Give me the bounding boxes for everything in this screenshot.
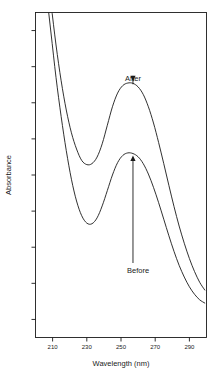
y-axis-ticks xyxy=(32,31,36,320)
annotation-before: Before xyxy=(127,156,149,275)
spectrum-curves xyxy=(41,0,205,303)
plot-border xyxy=(36,13,207,338)
x-axis-title: Wavelength (nm) xyxy=(93,359,150,368)
y-axis-title: Absorbance xyxy=(4,155,13,195)
spectrum-curve-before xyxy=(41,0,205,303)
annotation-arrowhead xyxy=(130,156,135,162)
plot-frame xyxy=(36,13,207,338)
chart-canvas: 210230250270290 AfterBefore Wavelength (… xyxy=(0,0,221,379)
curve-annotations: AfterBefore xyxy=(125,74,149,275)
x-axis-ticks xyxy=(53,338,190,342)
annotation-after: After xyxy=(125,74,141,85)
x-tick-label: 230 xyxy=(82,344,93,350)
absorbance-spectrum-figure: 210230250270290 AfterBefore Wavelength (… xyxy=(0,0,221,379)
x-tick-label: 210 xyxy=(48,344,59,350)
annotation-label: Before xyxy=(127,266,149,275)
x-axis-tick-labels: 210230250270290 xyxy=(48,344,195,350)
x-tick-label: 250 xyxy=(116,344,127,350)
annotation-label: After xyxy=(125,74,141,83)
x-tick-label: 290 xyxy=(184,344,195,350)
x-tick-label: 270 xyxy=(150,344,161,350)
